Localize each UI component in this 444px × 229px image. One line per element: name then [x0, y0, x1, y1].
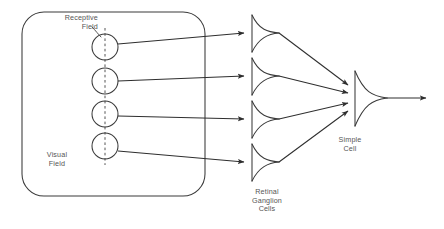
retinal-ganglion-cell	[252, 101, 279, 138]
diagram-canvas: Receptive Field Visual Field Retinal Gan…	[0, 0, 444, 229]
projection-line-rf3-to-ganglion3	[118, 116, 244, 119]
retinal-ganglion-cell	[252, 58, 279, 95]
simple-cell-label: Simple Cell	[322, 136, 378, 153]
retinal-ganglion-cells-label: Retinal Ganglion Cells	[234, 188, 300, 214]
diagram-svg	[0, 0, 444, 229]
visual-field-label: Visual Field	[30, 151, 84, 168]
convergence-line-ganglion1-to-simple-cell	[279, 33, 348, 85]
retinal-ganglion-cell	[252, 15, 279, 52]
convergence-line-ganglion3-to-simple-cell	[279, 103, 348, 119]
projection-line-rf1-to-ganglion1	[118, 33, 244, 44]
retinal-ganglion-cell	[252, 144, 279, 181]
projection-line-rf2-to-ganglion2	[118, 76, 244, 81]
projection-line-rf4-to-ganglion4	[118, 151, 244, 162]
convergence-line-ganglion2-to-simple-cell	[279, 76, 348, 93]
simple-cell	[355, 71, 387, 126]
receptive-field-label: Receptive Field	[44, 14, 98, 31]
